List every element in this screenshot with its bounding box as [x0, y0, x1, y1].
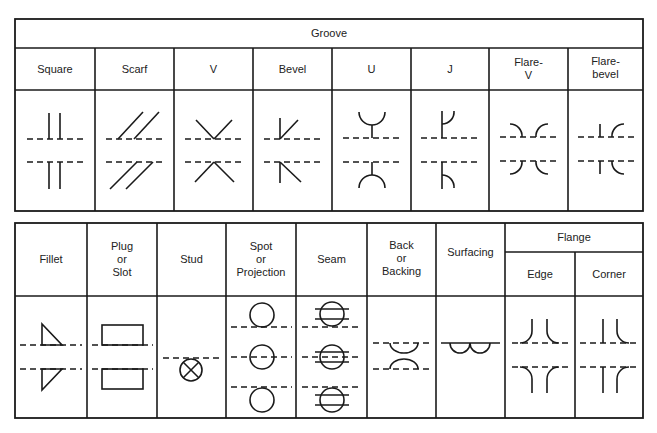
header-text: Back — [389, 239, 413, 252]
header-text: Fillet — [39, 253, 62, 266]
header-text: Seam — [317, 253, 346, 266]
header-flange-edge: Edge — [505, 252, 575, 296]
header-stud: Stud — [157, 223, 226, 296]
header-text: Bevel — [279, 63, 307, 76]
groove-header-v: V — [174, 48, 253, 90]
groove-header-bevel: Bevel — [253, 48, 332, 90]
flare-bevel-groove-symbol — [600, 124, 624, 174]
groove-header-u: U — [332, 48, 411, 90]
header-text: or — [397, 252, 407, 265]
header-text: bevel — [592, 68, 618, 81]
groove-title: Groove — [15, 19, 643, 48]
groove-header-j: J — [411, 48, 489, 90]
header-text: Spot — [250, 240, 273, 253]
scarf-groove-symbol — [110, 112, 159, 189]
header-flange: Flange — [505, 223, 643, 252]
u-groove-symbol — [359, 112, 385, 188]
flange-corner-weld-symbol — [603, 319, 629, 393]
header-text: Surfacing — [447, 246, 493, 259]
flare-v-groove-symbol — [510, 124, 548, 174]
header-fillet: Fillet — [15, 223, 87, 296]
header-text: Scarf — [122, 63, 148, 76]
header-text: Plug — [111, 240, 133, 253]
groove-header-flare-bevel: Flare- bevel — [568, 48, 643, 88]
surfacing-weld-symbol — [441, 343, 500, 353]
header-back-backing: Back or Backing — [367, 223, 436, 294]
header-text: Square — [37, 63, 72, 76]
header-text: Stud — [180, 253, 203, 266]
header-text: Slot — [113, 266, 132, 279]
stud-weld-symbol — [180, 359, 202, 381]
flange-edge-weld-symbol — [520, 319, 559, 393]
bevel-groove-symbol — [280, 118, 301, 183]
groove-title-text: Groove — [311, 27, 347, 40]
header-seam: Seam — [296, 223, 367, 296]
header-text: Corner — [592, 268, 626, 281]
welding-symbols-chart: Groove Square Scarf V Bevel U J Flare- V… — [0, 0, 657, 433]
plug-slot-weld-symbol — [102, 325, 143, 389]
header-text: Backing — [382, 265, 421, 278]
header-text: or — [117, 253, 127, 266]
j-groove-symbol — [442, 111, 454, 189]
groove-header-square: Square — [15, 48, 95, 90]
header-text: J — [447, 63, 453, 76]
header-text: Flange — [557, 231, 591, 244]
header-text: or — [256, 253, 266, 266]
header-text: Edge — [527, 268, 553, 281]
header-text: Flare- — [514, 56, 543, 69]
back-backing-weld-symbol — [390, 343, 418, 369]
header-text: Projection — [237, 266, 286, 279]
v-groove-symbol — [195, 120, 234, 182]
square-groove-symbol — [49, 113, 60, 189]
header-flange-corner: Corner — [575, 252, 643, 296]
fillet-weld-symbol — [42, 324, 62, 390]
header-text: V — [525, 69, 532, 82]
header-surfacing: Surfacing — [436, 223, 505, 281]
header-plug-slot: Plug or Slot — [87, 223, 157, 296]
groove-header-flare-v: Flare- V — [489, 48, 568, 90]
header-text: U — [368, 63, 376, 76]
groove-header-scarf: Scarf — [95, 48, 174, 90]
header-text: Flare- — [591, 55, 620, 68]
header-spot-projection: Spot or Projection — [226, 223, 296, 296]
header-text: V — [210, 63, 217, 76]
